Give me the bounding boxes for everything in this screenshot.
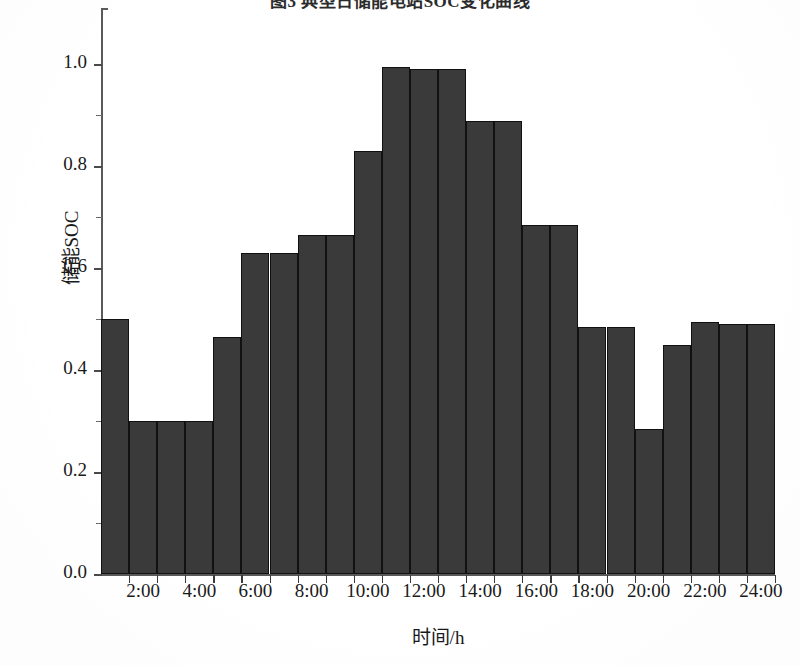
bar xyxy=(550,225,578,574)
bar xyxy=(719,324,747,574)
y-minor-tick xyxy=(96,217,102,218)
bar xyxy=(101,319,129,574)
x-axis-title: 时间/h xyxy=(101,622,775,649)
bar xyxy=(270,253,298,574)
bar xyxy=(438,69,466,574)
bar xyxy=(522,225,550,574)
y-tick-label: 0.6 xyxy=(41,255,87,277)
bar xyxy=(635,429,663,574)
y-tick-label: 0.0 xyxy=(41,561,87,583)
bar xyxy=(607,327,635,574)
y-tick xyxy=(94,166,102,168)
bar xyxy=(213,337,241,574)
bar xyxy=(326,235,354,574)
bar xyxy=(494,121,522,574)
bar xyxy=(185,421,213,574)
plot-area xyxy=(101,8,775,575)
y-tick-label: 1.0 xyxy=(41,51,87,73)
y-tick-label: 0.2 xyxy=(41,459,87,481)
y-tick xyxy=(94,64,102,66)
bar xyxy=(241,253,269,574)
bar xyxy=(382,67,410,574)
chart-figure: 图3 典型日储能电站SOC变化曲线 储能SOC 0.00.20.40.60.81… xyxy=(0,0,800,665)
bar xyxy=(410,69,438,574)
y-axis-title: 储能SOC xyxy=(56,188,83,308)
y-tick xyxy=(94,268,102,270)
y-minor-tick xyxy=(96,115,102,116)
bar xyxy=(129,421,157,574)
bar xyxy=(298,235,326,574)
bar xyxy=(691,322,719,574)
bar xyxy=(157,421,185,574)
y-tick xyxy=(94,574,102,576)
bar xyxy=(578,327,606,574)
bar xyxy=(747,324,775,574)
bar xyxy=(466,121,494,574)
y-tick-label: 0.4 xyxy=(41,357,87,379)
y-axis-top-cap xyxy=(101,8,108,10)
bar xyxy=(354,151,382,574)
x-tick-label: 24:00 xyxy=(726,580,796,602)
y-tick-label: 0.8 xyxy=(41,153,87,175)
bar xyxy=(663,345,691,575)
